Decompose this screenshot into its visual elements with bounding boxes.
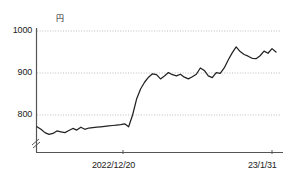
axes <box>32 28 283 154</box>
chart-canvas <box>0 0 289 181</box>
x-tick-label-1: 2022/12/20 <box>92 160 135 170</box>
gridlines <box>37 31 281 115</box>
x-tick-label-2: 23/1/31 <box>248 160 277 170</box>
price-line-series <box>37 47 276 134</box>
stock-price-chart: 円 1000 900 800 2022/12/20 23/1/31 <box>0 0 289 181</box>
